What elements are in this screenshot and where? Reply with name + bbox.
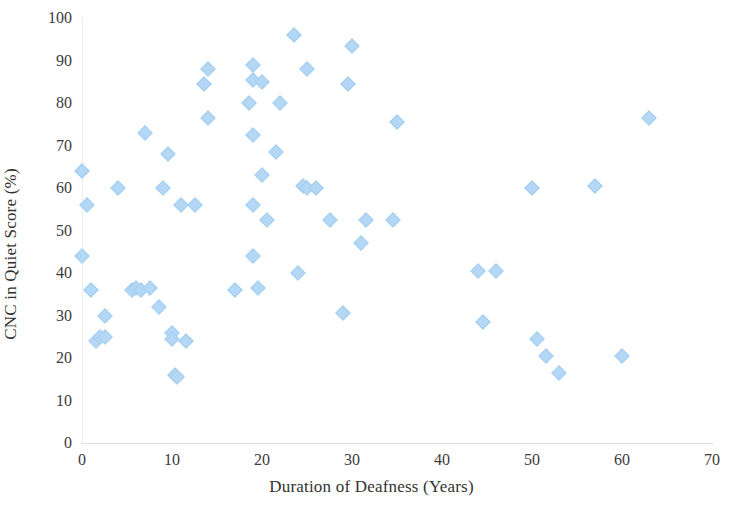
- data-point-marker: [79, 197, 95, 213]
- data-point-marker: [151, 299, 167, 315]
- data-point-marker: [137, 125, 153, 141]
- data-point-marker: [529, 331, 545, 347]
- data-point-marker: [83, 282, 99, 298]
- scatter-chart: CNC in Quiet Score (%) Duration of Deafn…: [0, 0, 743, 508]
- data-point-marker: [322, 212, 338, 228]
- data-point-marker: [385, 212, 401, 228]
- data-point-marker: [475, 314, 491, 330]
- data-point-marker: [245, 57, 261, 73]
- data-point-marker: [74, 163, 90, 179]
- data-point-marker: [110, 180, 126, 196]
- data-point-marker: [155, 180, 171, 196]
- data-point-marker: [178, 333, 194, 349]
- data-point-marker: [538, 348, 554, 364]
- data-point-marker: [227, 282, 243, 298]
- data-point-marker: [74, 248, 90, 264]
- data-point-marker: [200, 110, 216, 126]
- data-point-marker: [187, 197, 203, 213]
- data-point-marker: [335, 306, 351, 322]
- data-point-marker: [160, 146, 176, 162]
- data-point-marker: [488, 263, 504, 279]
- data-point-marker: [524, 180, 540, 196]
- data-point-marker: [254, 167, 270, 183]
- data-point-marker: [259, 212, 275, 228]
- data-point-marker: [241, 95, 257, 111]
- data-point-marker: [290, 265, 306, 281]
- data-point-marker: [358, 212, 374, 228]
- data-point-marker: [250, 280, 266, 296]
- data-point-marker: [587, 178, 603, 194]
- data-point-marker: [272, 95, 288, 111]
- data-point-marker: [245, 127, 261, 143]
- data-point-marker: [245, 248, 261, 264]
- data-point-marker: [245, 197, 261, 213]
- data-point-marker: [641, 110, 657, 126]
- plot-area: [0, 0, 743, 508]
- data-point-marker: [196, 76, 212, 92]
- data-point-marker: [344, 38, 360, 54]
- data-point-marker: [286, 27, 302, 43]
- data-point-marker: [614, 348, 630, 364]
- data-point-marker: [340, 76, 356, 92]
- data-point-marker: [389, 114, 405, 130]
- data-point-marker: [470, 263, 486, 279]
- data-point-marker: [353, 235, 369, 251]
- data-point-marker: [551, 365, 567, 381]
- data-point-marker: [268, 144, 284, 160]
- data-point-marker: [308, 180, 324, 196]
- data-point-marker: [299, 61, 315, 77]
- data-point-marker: [97, 308, 113, 324]
- data-point-marker: [200, 61, 216, 77]
